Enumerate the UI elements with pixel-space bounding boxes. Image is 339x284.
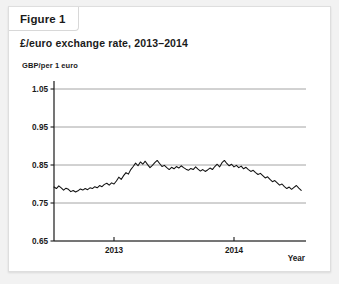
x-tick-label: 2014: [225, 246, 244, 255]
gridlines-group: [54, 89, 306, 241]
y-tick-label: 1.05: [32, 85, 48, 94]
x-tick-label: 2013: [105, 246, 124, 255]
x-axis-label: Year: [288, 254, 306, 263]
line-chart-svg: 0.650.750.850.951.05 20132014 Year: [9, 7, 332, 273]
screenshot-root: Figure 1 £/euro exchange rate, 2013–2014…: [0, 0, 339, 284]
chart-plot-area: 0.650.750.850.951.05 20132014 Year: [9, 7, 332, 273]
x-tick-group: 20132014: [105, 237, 244, 255]
y-tick-label: 0.85: [32, 161, 48, 170]
figure-card: Figure 1 £/euro exchange rate, 2013–2014…: [8, 6, 331, 272]
y-tick-label: 0.95: [32, 123, 48, 132]
y-tick-label: 0.65: [32, 237, 48, 246]
y-tick-group: 0.650.750.850.951.05: [32, 85, 54, 246]
y-tick-label: 0.75: [32, 199, 48, 208]
